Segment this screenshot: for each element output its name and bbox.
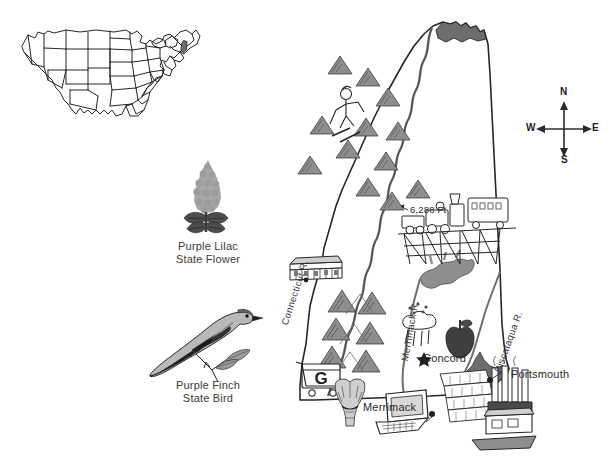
united-states-locator-map xyxy=(14,18,204,138)
city-label-concord: Concord xyxy=(423,352,466,364)
map-illustration-canvas: Purple Lilac State Flower xyxy=(0,0,610,465)
new-hampshire-state-map: G xyxy=(280,14,580,454)
compass-east-label: E xyxy=(592,122,599,133)
state-bird-caption: Purple Finch State Bird xyxy=(145,379,271,405)
state-flower-caption: Purple Lilac State Flower xyxy=(145,240,271,266)
shopping-cart-letter: G xyxy=(314,369,327,388)
lilac-icon xyxy=(168,158,246,236)
city-label-merrimack: Merrimack xyxy=(363,401,416,413)
state-bird-name: Purple Finch xyxy=(145,379,271,392)
state-flower-name: Purple Lilac xyxy=(145,240,271,253)
state-flower-label: State Flower xyxy=(145,253,271,266)
state-bird-label: State Bird xyxy=(145,392,271,405)
finch-icon xyxy=(146,296,272,384)
city-label-portsmouth: Portsmouth xyxy=(511,368,569,380)
highest-point-label: 6,288 Ft xyxy=(410,204,446,215)
city-marker-merrimack xyxy=(429,411,435,417)
city-marker-portsmouth xyxy=(487,377,493,383)
wheat-sheaf-icon xyxy=(335,379,365,426)
